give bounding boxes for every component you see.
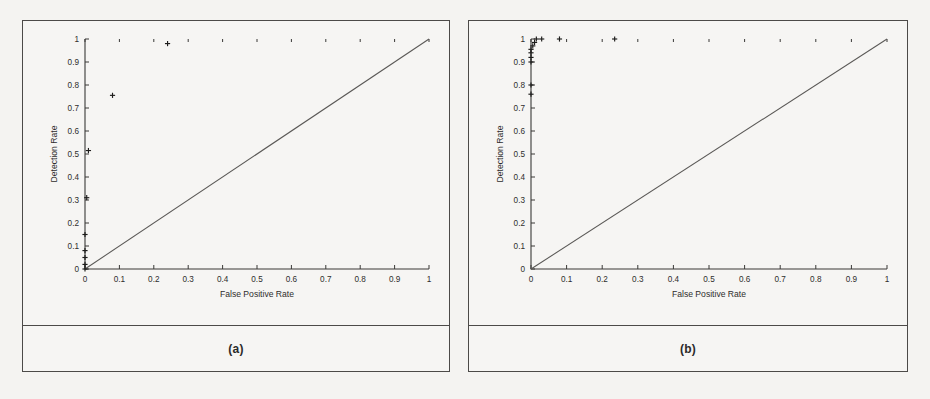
x-axis-tick-label: 0.7 — [775, 275, 787, 284]
y-axis-tick-label: 0.1 — [514, 242, 526, 251]
y-axis-tick-label: 0.5 — [68, 150, 80, 159]
roc-chart-a: 00.10.20.30.40.50.60.70.80.9100.10.20.30… — [23, 21, 451, 325]
y-axis-tick-label: 0.9 — [514, 58, 526, 67]
x-axis-title: False Positive Rate — [672, 289, 746, 299]
roc-point-marker — [528, 82, 533, 87]
y-axis-tick-label: 0.7 — [68, 104, 80, 113]
chance-diagonal-line — [85, 39, 429, 269]
figure-panel-a: 00.10.20.30.40.50.60.70.80.9100.10.20.30… — [22, 20, 450, 372]
x-axis-tick-label: 0.6 — [739, 275, 751, 284]
roc-point-marker — [86, 148, 91, 153]
y-axis-title: Detection Rate — [49, 125, 59, 182]
roc-point-marker — [528, 55, 533, 60]
roc-point-marker — [612, 36, 617, 41]
y-axis-tick-label: 0.4 — [68, 173, 80, 182]
roc-point-series — [528, 36, 617, 96]
roc-point-marker — [82, 232, 87, 237]
roc-point-marker — [528, 92, 533, 97]
plot-area-a: 00.10.20.30.40.50.60.70.80.9100.10.20.30… — [23, 21, 449, 325]
x-axis-tick-label: 0.1 — [114, 275, 126, 284]
y-axis-tick-label: 0.1 — [68, 242, 80, 251]
y-axis-title: Detection Rate — [495, 125, 505, 182]
y-axis-tick-label: 0 — [74, 265, 79, 274]
y-axis-tick-label: 0.2 — [514, 219, 526, 228]
panel-caption-b: (b) — [680, 342, 696, 356]
caption-strip-a: (a) — [23, 325, 449, 371]
y-axis-tick-label: 1 — [520, 35, 525, 44]
y-axis-tick-label: 0.9 — [68, 58, 80, 67]
y-axis-tick-label: 0.8 — [514, 81, 526, 90]
caption-strip-b: (b) — [469, 325, 907, 371]
x-axis-tick-label: 0.2 — [597, 275, 609, 284]
roc-point-marker — [165, 41, 170, 46]
x-axis-tick-label: 0.2 — [148, 275, 160, 284]
roc-point-marker — [82, 255, 87, 260]
roc-point-series — [82, 41, 170, 272]
y-axis-tick-label: 0.8 — [68, 81, 80, 90]
panel-caption-a: (a) — [228, 342, 243, 356]
x-axis-tick-label: 1 — [427, 275, 432, 284]
y-axis-tick-label: 0.2 — [68, 219, 80, 228]
plot-area-b: 00.10.20.30.40.50.60.70.80.9100.10.20.30… — [469, 21, 907, 325]
y-axis-tick-label: 0.3 — [68, 196, 80, 205]
x-axis-tick-label: 0.7 — [320, 275, 332, 284]
y-axis-tick-label: 0.5 — [514, 150, 526, 159]
chance-diagonal-line — [531, 39, 887, 269]
y-axis-tick-label: 0.4 — [514, 173, 526, 182]
figure-panel-b: 00.10.20.30.40.50.60.70.80.9100.10.20.30… — [468, 20, 908, 372]
x-axis-tick-label: 0.8 — [355, 275, 367, 284]
y-axis-tick-label: 0.3 — [514, 196, 526, 205]
y-axis-tick-label: 0.6 — [514, 127, 526, 136]
y-axis-tick-label: 0 — [520, 265, 525, 274]
x-axis-tick-label: 0.4 — [668, 275, 680, 284]
x-axis-tick-label: 0.1 — [561, 275, 573, 284]
roc-point-marker — [557, 36, 562, 41]
x-axis-tick-label: 0.3 — [183, 275, 195, 284]
roc-point-marker — [82, 262, 87, 267]
x-axis-tick-label: 0.8 — [810, 275, 822, 284]
roc-point-marker — [110, 93, 115, 98]
x-axis-tick-label: 0 — [83, 275, 88, 284]
y-axis-tick-label: 0.6 — [68, 127, 80, 136]
x-axis-tick-label: 0.4 — [217, 275, 229, 284]
y-axis-tick-label: 0.7 — [514, 104, 526, 113]
roc-chart-b: 00.10.20.30.40.50.60.70.80.9100.10.20.30… — [469, 21, 909, 325]
x-axis-tick-label: 0.6 — [286, 275, 298, 284]
x-axis-tick-label: 0.5 — [703, 275, 715, 284]
figure-root: 00.10.20.30.40.50.60.70.80.9100.10.20.30… — [0, 0, 930, 399]
roc-point-marker — [82, 248, 87, 253]
y-axis-tick-label: 1 — [74, 35, 79, 44]
x-axis-tick-label: 0.5 — [251, 275, 263, 284]
roc-point-marker — [539, 36, 544, 41]
roc-point-marker — [528, 59, 533, 64]
x-axis-tick-label: 0.9 — [846, 275, 858, 284]
x-axis-tick-label: 0.9 — [389, 275, 401, 284]
x-axis-tick-label: 1 — [885, 275, 890, 284]
x-axis-title: False Positive Rate — [220, 289, 294, 299]
x-axis-tick-label: 0 — [529, 275, 534, 284]
x-axis-tick-label: 0.3 — [632, 275, 644, 284]
